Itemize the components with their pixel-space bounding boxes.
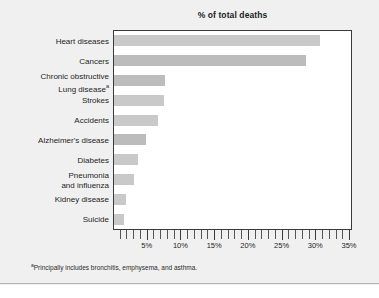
x-axis-minor-tick: [255, 230, 256, 239]
x-axis-tick-label: 15%: [207, 241, 222, 250]
y-label-pneumonia-line1: Pneumonia: [69, 171, 109, 180]
bar-row: [114, 194, 350, 205]
bar-row: [114, 55, 350, 66]
x-axis-minor-tick: [194, 230, 195, 239]
x-axis-ticks: [113, 230, 352, 241]
x-axis-major-tick: [282, 230, 283, 240]
y-label-kidney-disease: Kidney disease: [0, 195, 109, 205]
x-axis-minor-tick: [241, 230, 242, 239]
bar-row: [114, 134, 350, 145]
y-label-diabetes: Diabetes: [0, 156, 109, 166]
x-axis-minor-tick: [126, 230, 127, 239]
x-axis-tick-label: 5%: [141, 241, 152, 250]
x-axis-minor-tick: [221, 230, 222, 239]
y-label-pneumonia-line2: and influenza: [61, 181, 109, 190]
y-label-suicide: Suicide: [0, 215, 109, 225]
x-axis-major-tick: [180, 230, 181, 240]
y-label-alzheimers: Alzheimer's disease: [0, 136, 109, 146]
x-axis-minor-tick: [302, 230, 303, 239]
x-axis-minor-tick: [201, 230, 202, 239]
bar-row: [114, 174, 350, 185]
x-axis-tick-label: 25%: [274, 241, 289, 250]
bar: [114, 154, 138, 165]
x-axis-minor-tick: [187, 230, 188, 239]
x-axis-minor-tick: [133, 230, 134, 239]
x-axis-minor-tick: [174, 230, 175, 239]
x-axis-minor-tick: [228, 230, 229, 239]
x-axis-minor-tick: [322, 230, 323, 239]
bar: [114, 174, 134, 185]
y-label-accidents: Accidents: [0, 116, 109, 126]
bar: [114, 115, 158, 126]
bar-series: [114, 31, 350, 229]
x-axis-tick-label: 30%: [308, 241, 323, 250]
chart-title: % of total deaths: [113, 10, 352, 20]
y-label-copd: Chronic obstructiveLung diseasea: [0, 72, 109, 94]
bar-row: [114, 154, 350, 165]
x-axis-minor-tick: [329, 230, 330, 239]
bar: [114, 95, 164, 106]
x-axis-minor-tick: [160, 230, 161, 239]
y-axis-labels: Heart diseases Cancers Chronic obstructi…: [0, 30, 109, 230]
x-axis-minor-tick: [261, 230, 262, 239]
x-axis-minor-tick: [120, 230, 121, 239]
x-axis-minor-tick: [153, 230, 154, 239]
x-axis-major-tick: [214, 230, 215, 240]
x-axis-minor-tick: [336, 230, 337, 239]
x-axis-minor-tick: [268, 230, 269, 239]
bar-row: [114, 75, 350, 86]
bar-row: [114, 95, 350, 106]
x-axis-tick-label: 35%: [341, 241, 356, 250]
footnote-text: Principally includes bronchitis, emphyse…: [34, 264, 197, 271]
x-axis-minor-tick: [140, 230, 141, 239]
bar: [114, 214, 124, 225]
bar: [114, 55, 306, 66]
chart-figure: % of total deaths Heart diseases Cancers…: [0, 0, 379, 285]
bar: [114, 75, 165, 86]
x-axis-minor-tick: [207, 230, 208, 239]
y-label-cancers: Cancers: [0, 57, 109, 67]
x-axis-major-tick: [147, 230, 148, 240]
y-label-heart-diseases: Heart diseases: [0, 37, 109, 47]
x-axis-minor-tick: [288, 230, 289, 239]
x-axis-tick-label: 20%: [240, 241, 255, 250]
bar-row: [114, 214, 350, 225]
x-axis-major-tick: [248, 230, 249, 240]
x-axis-minor-tick: [275, 230, 276, 239]
bar-row: [114, 35, 350, 46]
x-axis-minor-tick: [167, 230, 168, 239]
x-axis-minor-tick: [234, 230, 235, 239]
page-rule: [0, 283, 379, 284]
x-axis-tick-labels: 5%10%15%20%25%30%35%: [113, 241, 352, 253]
chart-footnote: aPrincipally includes bronchitis, emphys…: [31, 262, 197, 271]
x-axis-major-tick: [349, 230, 350, 240]
x-axis-minor-tick: [295, 230, 296, 239]
bar: [114, 194, 126, 205]
y-label-copd-line1: Chronic obstructive: [41, 72, 109, 81]
bar: [114, 35, 320, 46]
x-axis-major-tick: [315, 230, 316, 240]
y-label-strokes: Strokes: [0, 96, 109, 106]
y-label-copd-line2: Lung disease: [58, 84, 106, 93]
bar: [114, 134, 146, 145]
y-label-pneumonia: Pneumoniaand influenza: [0, 171, 109, 190]
y-label-copd-footnote-marker: a: [106, 83, 109, 89]
bar-row: [114, 115, 350, 126]
x-axis-minor-tick: [342, 230, 343, 239]
x-axis-tick-label: 10%: [173, 241, 188, 250]
x-axis-minor-tick: [309, 230, 310, 239]
